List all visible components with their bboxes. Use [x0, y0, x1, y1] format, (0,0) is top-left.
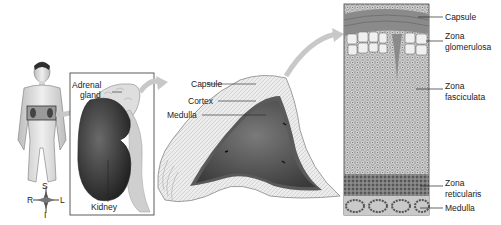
- hist-label-capsule-text: Capsule: [445, 12, 476, 22]
- hist-label-capsule: Capsule: [445, 12, 476, 23]
- hist-label-medulla: Medulla: [445, 203, 475, 214]
- gland-medulla-label: Medulla: [167, 110, 197, 120]
- reticularis-layer: [344, 174, 429, 196]
- compass-right-label: R: [27, 195, 33, 205]
- hist-label-reticularis-line2: reticularis: [445, 189, 481, 200]
- hist-label-glomerulosa-line2: glomerulosa: [445, 42, 491, 53]
- hist-label-glomerulosa-line1: Zona: [445, 31, 491, 42]
- hist-label-glomerulosa: Zona glomerulosa: [445, 31, 491, 53]
- diagram-canvas: [0, 0, 501, 225]
- adrenal-gland-label-line1: Adrenal: [72, 80, 101, 90]
- histology-column: [344, 4, 429, 215]
- hist-label-fasciculata-line2: fasciculata: [445, 92, 485, 103]
- hist-label-medulla-text: Medulla: [445, 203, 475, 213]
- hist-label-reticularis-line1: Zona: [445, 178, 481, 189]
- human-figure: [18, 62, 66, 182]
- hist-label-fasciculata-line1: Zona: [445, 81, 485, 92]
- compass-inferior-label: I: [44, 210, 46, 220]
- adrenal-gland-cross-section: [158, 75, 340, 201]
- compass-left-label: L: [60, 195, 65, 205]
- gland-cortex-label: Cortex: [188, 96, 213, 106]
- hist-label-fasciculata: Zona fasciculata: [445, 81, 485, 103]
- compass-superior-label: S: [42, 181, 48, 191]
- medulla-layer: [344, 196, 429, 215]
- gland-capsule-label: Capsule: [191, 79, 222, 89]
- arrow-gland-to-histology: [286, 34, 336, 76]
- kidney-label: Kidney: [91, 202, 117, 212]
- hist-label-reticularis: Zona reticularis: [445, 178, 481, 200]
- adrenal-gland-label-line2: gland: [80, 90, 101, 100]
